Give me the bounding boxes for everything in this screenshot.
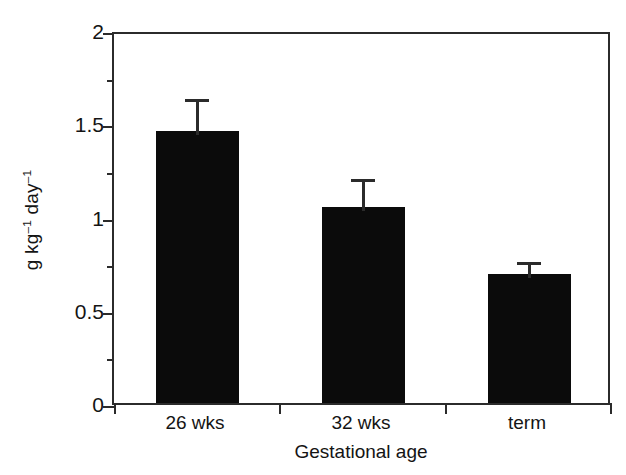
y-axis-tick-label: 0 — [54, 393, 104, 417]
y-axis-tick-label: 2 — [54, 20, 104, 44]
error-bar-cap — [185, 99, 209, 102]
y-axis-major-tick — [103, 126, 114, 128]
bar — [156, 131, 239, 403]
y-axis-major-tick — [103, 33, 114, 35]
y-axis-title-exp1: –1 — [20, 220, 33, 234]
y-axis-tick-label: 1 — [54, 207, 104, 231]
y-axis-title-exp2: –1 — [20, 170, 33, 184]
error-bar-stem — [196, 99, 199, 134]
y-axis-title: g kg–1 day–1 — [21, 170, 43, 270]
x-axis-tick — [610, 403, 612, 414]
x-axis-tick-label: term — [508, 412, 546, 434]
error-bar-cap — [517, 262, 541, 265]
error-bar-stem — [362, 179, 365, 211]
x-axis-title: Gestational age — [112, 441, 610, 463]
x-axis-tick-label: 32 wks — [331, 412, 390, 434]
y-axis-title-lead: g kg — [21, 234, 42, 271]
y-axis-tick-label: 0.5 — [54, 300, 104, 324]
y-axis-minor-tick — [107, 173, 114, 175]
bar — [322, 207, 405, 403]
plot-area — [112, 32, 610, 405]
x-axis-tick-label: 26 wks — [165, 412, 224, 434]
y-axis-minor-tick — [107, 359, 114, 361]
y-axis-major-tick — [103, 313, 114, 315]
y-axis-title-container: g kg–1 day–1 — [14, 120, 50, 320]
x-axis-tick-labels: 26 wks32 wksterm — [112, 412, 610, 438]
bar — [488, 274, 571, 403]
y-axis-major-tick — [103, 220, 114, 222]
y-axis-minor-tick — [107, 266, 114, 268]
y-axis-tick-label: 1.5 — [54, 113, 104, 137]
y-axis-tick-labels: 00.511.52 — [52, 0, 104, 475]
y-axis-title-mid: day — [21, 183, 42, 220]
error-bar-cap — [351, 179, 375, 182]
y-axis-minor-tick — [107, 80, 114, 82]
y-axis-major-tick — [103, 406, 114, 408]
chart-figure: g kg–1 day–1 00.511.52 26 wks32 wksterm … — [0, 0, 626, 475]
